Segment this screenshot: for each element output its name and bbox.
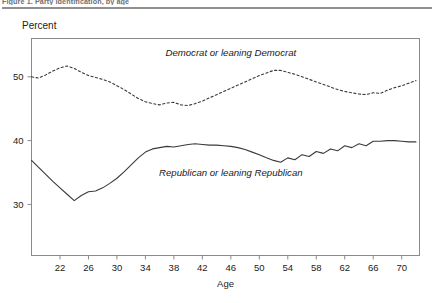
- x-tick-label: 34: [140, 262, 151, 273]
- x-tick-label: 26: [83, 262, 94, 273]
- x-axis-title: Age: [217, 278, 234, 289]
- series-line-democrat: [32, 66, 416, 106]
- x-tick-label: 42: [197, 262, 208, 273]
- line-chart: 30405022263034384246505458626670AgeDemoc…: [0, 0, 436, 303]
- x-tick-label: 22: [55, 262, 66, 273]
- y-tick-label: 50: [13, 71, 24, 82]
- plot-frame: [32, 39, 420, 256]
- y-tick-label: 40: [13, 135, 24, 146]
- x-tick-label: 46: [226, 262, 237, 273]
- x-tick-label: 50: [254, 262, 265, 273]
- figure-container: Figure 1. Party identification, by age P…: [0, 0, 436, 303]
- y-tick-label: 30: [13, 199, 24, 210]
- series-label-republican: Republican or leaning Republican: [159, 167, 302, 178]
- x-tick-label: 62: [339, 262, 350, 273]
- x-tick-label: 70: [396, 262, 407, 273]
- x-tick-label: 66: [368, 262, 379, 273]
- x-tick-label: 58: [311, 262, 322, 273]
- x-tick-label: 30: [112, 262, 123, 273]
- x-tick-label: 38: [169, 262, 180, 273]
- x-tick-label: 54: [283, 262, 294, 273]
- series-label-democrat: Democrat or leaning Democrat: [166, 47, 297, 58]
